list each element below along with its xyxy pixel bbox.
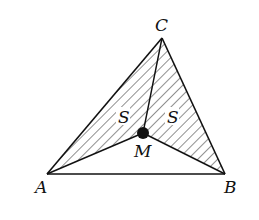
area-label-s-left: S <box>118 107 130 127</box>
triangle-diagram: C A B M S S <box>0 0 259 220</box>
label-a: A <box>33 177 47 197</box>
area-label-s-right: S <box>167 107 179 127</box>
label-c: C <box>155 15 168 35</box>
label-b: B <box>223 177 237 197</box>
point-m-dot <box>137 127 149 139</box>
label-m: M <box>133 141 152 161</box>
